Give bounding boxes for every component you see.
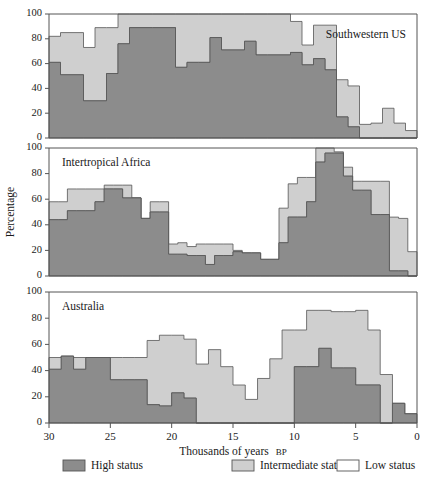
x-axis-title-suffix: BP (276, 447, 287, 457)
y-tick-label: 20 (32, 107, 43, 118)
y-axis-title: Percentage (4, 187, 17, 237)
panel-2-yaxis: 020406080100 (26, 141, 49, 280)
stacked-area-chart: 020406080100 Southwestern US 02040608010… (0, 0, 432, 488)
panel-3-yaxis: 020406080100 (26, 285, 49, 427)
legend: High statusIntermediate statusLow status (63, 459, 416, 472)
x-tick-label: 30 (44, 430, 56, 442)
y-tick-label: 80 (32, 167, 43, 178)
y-tick-label: 40 (32, 218, 43, 229)
legend-swatch-high (63, 460, 85, 471)
y-tick-label: 20 (32, 244, 43, 255)
y-tick-label: 0 (37, 416, 42, 427)
y-tick-label: 100 (26, 285, 42, 296)
y-tick-label: 100 (26, 141, 42, 152)
x-tick-label: 0 (414, 430, 420, 442)
panel-2-title: Intertropical Africa (62, 156, 150, 169)
legend-label-low: Low status (365, 459, 416, 471)
y-tick-label: 80 (32, 312, 43, 323)
x-tick-label: 10 (289, 430, 301, 442)
panel-3-areas (49, 310, 417, 423)
panel-intertropical-africa: 020406080100 Intertropical Africa (26, 141, 417, 280)
legend-swatch-intermediate (232, 460, 254, 471)
x-tick-label: 5 (353, 430, 359, 442)
panel-australia: 020406080100 Australia (26, 285, 417, 427)
x-tick-label: 25 (105, 430, 117, 442)
x-axis-title: Thousands of years BP (179, 445, 286, 458)
panel-1-title: Southwestern US (326, 28, 406, 40)
x-tick-label: 15 (228, 430, 240, 442)
figure-container: 020406080100 Southwestern US 02040608010… (0, 0, 432, 488)
legend-label-intermediate: Intermediate status (260, 459, 348, 471)
y-tick-label: 60 (32, 338, 43, 349)
y-tick-label: 80 (32, 32, 43, 43)
y-tick-label: 40 (32, 364, 43, 375)
panel-1-yaxis: 020406080100 (26, 7, 49, 142)
y-tick-label: 60 (32, 193, 43, 204)
svg-text:Thousands of years BP: Thousands of years BP (179, 445, 286, 458)
y-tick-label: 0 (37, 269, 42, 280)
y-tick-label: 100 (26, 7, 42, 18)
y-tick-label: 20 (32, 390, 43, 401)
panel-southwestern-us: 020406080100 Southwestern US (26, 7, 417, 142)
y-tick-label: 40 (32, 82, 43, 93)
legend-swatch-low (337, 460, 359, 471)
x-axis: 302520151050 (44, 423, 421, 442)
y-tick-label: 60 (32, 57, 43, 68)
x-tick-label: 20 (166, 430, 178, 442)
panel-2-series-high (49, 153, 417, 276)
panel-3-title: Australia (62, 300, 104, 312)
x-axis-title-main: Thousands of years (179, 445, 269, 458)
legend-label-high: High status (91, 459, 144, 472)
